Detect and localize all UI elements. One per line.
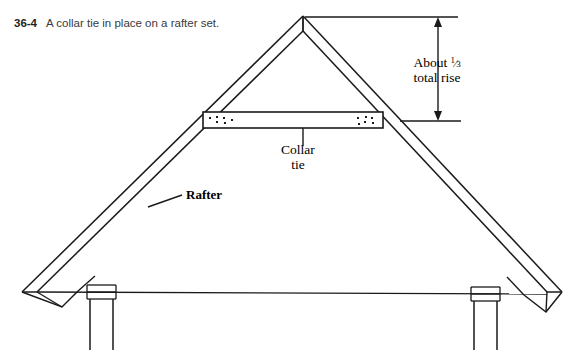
- rise-label-line2: total rise: [389, 70, 485, 85]
- left-rafter-bottom-edge: [37, 31, 303, 292]
- right-eave-end: [524, 292, 562, 312]
- roof-framing-diagram: [0, 0, 585, 355]
- rise-arrowhead-top: [434, 17, 442, 27]
- rafter-leader: [148, 195, 182, 207]
- right-eave-upper-return: [507, 277, 524, 295]
- collar-tie-label: Collar tie: [281, 142, 315, 172]
- rise-fraction: 1⁄3: [451, 57, 461, 69]
- rise-fraction-denominator: 3: [456, 59, 460, 69]
- figure-container: 36-4A collar tie in place on a rafter se…: [0, 0, 585, 355]
- rise-arrowhead-bottom: [434, 111, 442, 121]
- left-rafter-top-edge: [22, 16, 303, 292]
- collar-tie-label-line2: tie: [281, 157, 315, 172]
- rise-fraction-numerator: 1: [451, 55, 455, 65]
- right-eave-inner: [546, 292, 547, 312]
- rafter-label: Rafter: [186, 188, 222, 203]
- collar-tie-board: [203, 112, 383, 128]
- collar-tie-label-line1: Collar: [281, 142, 315, 157]
- rise-label-prefix: About: [413, 55, 450, 70]
- rise-dimension-label: About 1⁄3 total rise: [389, 55, 485, 85]
